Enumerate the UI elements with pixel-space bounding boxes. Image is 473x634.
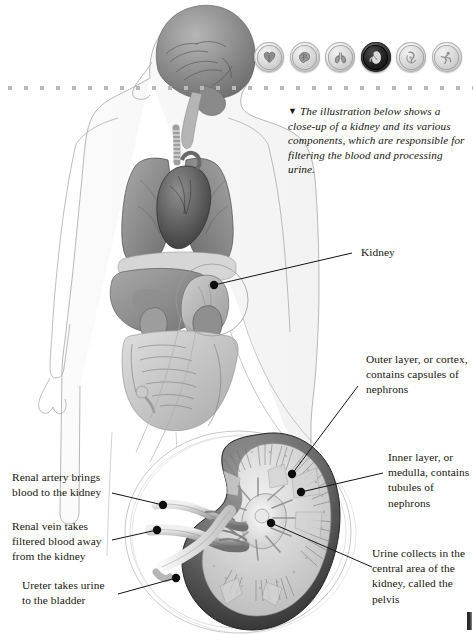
leader-ureter bbox=[118, 578, 176, 594]
ureter-vessel bbox=[162, 511, 230, 567]
label-medulla: Inner layer, or medulla, contains tubule… bbox=[388, 450, 473, 511]
magnifier-ring bbox=[176, 264, 248, 336]
label-renal-artery: Renal artery brings blood to the kidney bbox=[12, 470, 112, 500]
caption-text: The illustration below shows a close-up … bbox=[288, 105, 465, 175]
label-renal-vein: Renal vein takes filtered blood away fro… bbox=[12, 519, 116, 565]
label-pelvis: Urine collects in the central area of th… bbox=[372, 546, 472, 607]
leader-kidney bbox=[214, 253, 352, 285]
digestive-icon[interactable] bbox=[396, 42, 426, 72]
renal-vein-vessel bbox=[150, 529, 244, 546]
leader-medulla bbox=[301, 473, 383, 492]
heart-organ bbox=[157, 153, 211, 249]
abdominal-organs bbox=[110, 252, 238, 431]
kidney-cross-section bbox=[150, 433, 340, 630]
figure-caption: ▼The illustration below shows a close-up… bbox=[288, 104, 468, 177]
label-ureter: Ureter takes urine to the bladder bbox=[22, 578, 116, 608]
lungs-icon[interactable] bbox=[325, 42, 355, 72]
leader-artery bbox=[112, 493, 163, 505]
leader-cortex bbox=[292, 386, 358, 474]
brain-organ bbox=[156, 5, 255, 148]
magnification-cone bbox=[136, 318, 318, 462]
leader-vein bbox=[112, 530, 157, 540]
caption-triangle-icon: ▼ bbox=[288, 106, 297, 116]
label-kidney: Kidney bbox=[361, 245, 469, 260]
leader-pelvis bbox=[271, 523, 372, 567]
dotted-rule-divider bbox=[0, 84, 473, 92]
anatomy-page: ▼The illustration below shows a close-up… bbox=[0, 0, 473, 634]
brain-icon[interactable] bbox=[290, 42, 320, 72]
page-folio bbox=[467, 612, 472, 630]
runner-icon[interactable] bbox=[432, 42, 462, 72]
lungs-organ bbox=[122, 158, 233, 266]
heart-icon[interactable] bbox=[254, 42, 284, 72]
inset-frame bbox=[125, 431, 356, 633]
leader-lines bbox=[112, 253, 383, 594]
trachea-organ bbox=[173, 128, 180, 162]
label-cortex: Outer layer, or cortex, contains capsule… bbox=[366, 352, 470, 398]
renal-artery-vessel bbox=[156, 504, 244, 527]
kidney-icon[interactable] bbox=[361, 42, 391, 72]
leader-dots bbox=[153, 281, 305, 582]
chapter-icon-row bbox=[254, 42, 462, 72]
